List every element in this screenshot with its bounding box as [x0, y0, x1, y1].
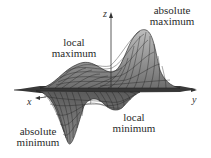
local-minimum-line2: minimum — [110, 123, 158, 134]
surface-figure: z y x absolute maximum local maximum loc… — [0, 0, 211, 158]
local-maximum-line2: maximum — [50, 48, 98, 59]
local-minimum-label: local minimum — [110, 112, 158, 134]
y-axis-label: y — [192, 94, 196, 105]
absolute-minimum-line2: minimum — [14, 137, 62, 148]
absolute-maximum-label: absolute maximum — [148, 5, 196, 27]
local-maximum-label: local maximum — [50, 37, 98, 59]
absolute-maximum-line2: maximum — [148, 16, 196, 27]
absolute-minimum-label: absolute minimum — [14, 126, 62, 148]
x-axis — [35, 96, 46, 100]
x-axis-label: x — [27, 96, 31, 107]
z-axis-label: z — [103, 8, 107, 19]
